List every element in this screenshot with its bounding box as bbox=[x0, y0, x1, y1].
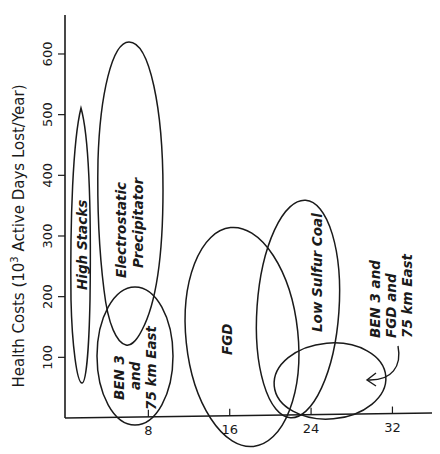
label-electrostatic-precipitator: Electrostatic Precipitator bbox=[113, 176, 146, 278]
y-tick-label: 200 bbox=[40, 284, 55, 309]
label-low-sulfur-coal: Low Sulfur Coal bbox=[309, 213, 325, 332]
region-labels: High Stacks Electrostatic Precipitator B… bbox=[74, 176, 415, 410]
label-ben3-fgd-75km-east: BEN 3 and FGD and 75 km East bbox=[367, 253, 415, 338]
region-ben3-75km-east bbox=[97, 287, 173, 425]
y-tick-label: 100 bbox=[40, 345, 55, 370]
x-tick-label: 32 bbox=[384, 420, 401, 435]
health-costs-chart: Health Costs (103 Active Days Lost/Year)… bbox=[0, 0, 440, 454]
y-tick-label: 600 bbox=[40, 42, 55, 67]
x-tick-label: 24 bbox=[303, 421, 320, 436]
label-high-stacks: High Stacks bbox=[74, 200, 90, 290]
y-axis-title: Health Costs (103 Active Days Lost/Year) bbox=[9, 84, 28, 387]
label-fgd: FGD bbox=[219, 323, 235, 355]
x-tick-label: 8 bbox=[144, 423, 152, 438]
region-low-sulfur-coal bbox=[249, 197, 346, 420]
y-tick-label: 500 bbox=[40, 102, 55, 127]
y-axis-ticks: 100200300400500600 bbox=[40, 42, 65, 370]
y-tick-label: 400 bbox=[40, 163, 55, 188]
x-axis-line bbox=[65, 413, 432, 418]
y-tick-label: 300 bbox=[40, 224, 55, 249]
